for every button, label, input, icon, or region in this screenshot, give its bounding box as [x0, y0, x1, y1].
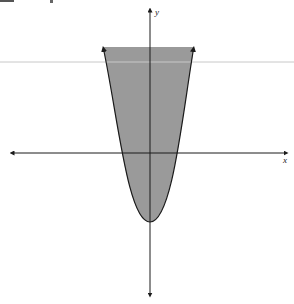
- x-axis-label: x: [282, 155, 287, 165]
- inequality-graph: x y: [0, 0, 294, 304]
- cropped-text-fragment: [0, 0, 14, 2]
- cropped-text-fragment-2: [50, 0, 53, 3]
- y-axis-label: y: [154, 7, 159, 17]
